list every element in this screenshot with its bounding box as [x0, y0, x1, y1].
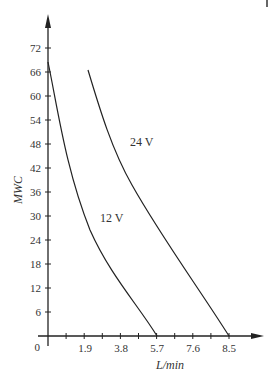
y-tick-label: 24 — [30, 234, 42, 246]
chart-canvas: 61218243036424854606672 1.93.85.77.68.5 … — [0, 0, 271, 384]
curve-label-12v: 12 V — [100, 211, 124, 225]
y-tick-label: 66 — [30, 66, 42, 78]
y-tick-label: 36 — [30, 186, 42, 198]
x-axis-title: L/min — [155, 358, 184, 372]
y-tick-label: 30 — [30, 210, 42, 222]
x-tick-label: 3.8 — [114, 342, 128, 354]
y-tick-label: 12 — [30, 282, 41, 294]
y-tick-label: 42 — [30, 162, 41, 174]
y-tick-label: 6 — [36, 306, 42, 318]
y-axis-arrow-icon — [45, 14, 51, 28]
y-tick-label: 60 — [30, 90, 42, 102]
y-tick-label: 54 — [30, 114, 42, 126]
y-tick-label: 72 — [30, 42, 41, 54]
x-tick-label: 5.7 — [150, 342, 164, 354]
y-tick-label: 48 — [30, 138, 42, 150]
x-tick-label: 8.5 — [222, 342, 236, 354]
origin-label: 0 — [35, 341, 41, 353]
curve-24v — [88, 70, 229, 336]
y-tick-label: 18 — [30, 258, 42, 270]
x-tick-label: 1.9 — [78, 342, 92, 354]
y-axis-title: MWC — [11, 175, 25, 205]
curve-label-24v: 24 V — [130, 135, 154, 149]
x-axis-arrow-icon — [251, 333, 264, 339]
x-tick-label: 7.6 — [186, 342, 200, 354]
